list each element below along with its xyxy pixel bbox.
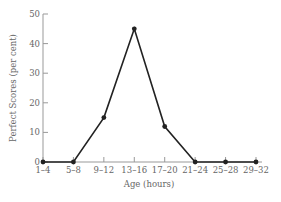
x-axis-label: Age (hours) <box>123 179 174 189</box>
x-tick-label: 5–8 <box>66 165 81 175</box>
data-point <box>223 160 228 165</box>
y-axis: 01020304050 <box>29 9 48 167</box>
y-tick-label: 40 <box>29 39 40 49</box>
data-point <box>193 160 198 165</box>
x-tick-label: 9–12 <box>94 165 114 175</box>
line-chart: 01020304050 1–45–89–1213–1617–2021–2425–… <box>0 0 281 202</box>
data-point <box>71 160 76 165</box>
y-tick-label: 10 <box>29 127 40 137</box>
data-point <box>41 160 46 165</box>
x-tick-label: 29–32 <box>243 165 269 175</box>
y-tick-label: 30 <box>29 68 40 78</box>
data-point <box>254 160 259 165</box>
data-point <box>162 124 167 129</box>
y-axis-label: Perfect Scores (per cent) <box>8 34 18 142</box>
data-point <box>132 26 137 31</box>
data-line <box>43 29 256 162</box>
y-tick-label: 50 <box>29 9 40 19</box>
x-tick-label: 13–16 <box>121 165 147 175</box>
data-points <box>41 26 259 164</box>
x-tick-label: 1–4 <box>35 165 50 175</box>
x-tick-label: 17–20 <box>152 165 178 175</box>
data-point <box>101 115 106 120</box>
x-tick-label: 21–24 <box>182 165 208 175</box>
x-tick-label: 25–28 <box>213 165 239 175</box>
x-axis: 1–45–89–1213–1617–2021–2425–2829–32 <box>35 157 268 175</box>
y-tick-label: 20 <box>29 98 40 108</box>
